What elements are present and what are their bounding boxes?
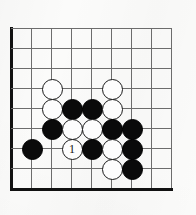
stone-white[interactable] [102,139,123,160]
stone-white[interactable] [62,119,83,140]
stone-white[interactable] [102,79,123,100]
board-grid: 1 [0,0,196,215]
grid-line-horizontal-7 [11,168,172,169]
move-number-label: 1 [63,140,82,159]
stone-white[interactable] [82,119,103,140]
board-edge-bottom [10,188,173,191]
stone-black[interactable] [22,139,43,160]
grid-line-horizontal-1 [11,48,172,49]
stone-black[interactable] [82,139,103,160]
grid-line-horizontal-3 [11,88,172,89]
stone-black[interactable] [62,99,83,120]
stone-black[interactable] [122,119,143,140]
stone-white[interactable] [102,99,123,120]
stone-black[interactable] [122,159,143,180]
stone-white[interactable] [42,79,63,100]
stone-white[interactable] [102,159,123,180]
stone-black[interactable] [102,119,123,140]
grid-line-horizontal-2 [11,68,172,69]
go-board-diagram: 1 [0,0,196,215]
stone-white-move-1[interactable]: 1 [62,139,83,160]
stone-black[interactable] [122,139,143,160]
stone-white[interactable] [42,99,63,120]
stone-black[interactable] [42,119,63,140]
stone-black[interactable] [82,99,103,120]
grid-line-horizontal-0 [11,28,172,29]
